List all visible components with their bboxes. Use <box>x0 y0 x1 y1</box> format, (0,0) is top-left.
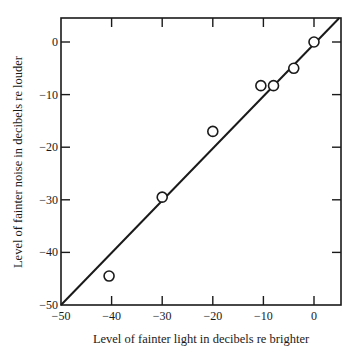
x-tick-label: −20 <box>203 309 222 323</box>
y-axis-tick-labels: −50−40−30−20−100 <box>39 35 58 312</box>
y-tick-label: −50 <box>39 298 58 312</box>
x-tick-label: −40 <box>102 309 121 323</box>
y-axis-title: Level of fainter noise in decibels re lo… <box>11 55 25 268</box>
data-point-circle <box>157 192 167 202</box>
y-tick-label: 0 <box>52 35 58 49</box>
x-axis-tick-labels: −50−40−30−20−100 <box>52 309 317 323</box>
data-point-circle <box>256 81 266 91</box>
data-point-circle <box>269 81 279 91</box>
x-tick-label: −30 <box>153 309 172 323</box>
y-tick-label: −20 <box>39 140 58 154</box>
data-point-circle <box>208 126 218 136</box>
equality-line <box>61 18 339 305</box>
x-axis-ticks <box>112 18 314 305</box>
x-axis-title: Level of fainter light in decibels re br… <box>93 332 310 346</box>
data-point-circle <box>289 63 299 73</box>
scatter-chart: −50−40−30−20−100 −50−40−30−20−100 Level … <box>0 0 357 356</box>
data-point-circle <box>104 271 114 281</box>
x-tick-label: −10 <box>254 309 273 323</box>
y-tick-label: −30 <box>39 193 58 207</box>
x-tick-label: 0 <box>311 309 317 323</box>
data-point-circle <box>309 37 319 47</box>
y-tick-label: −40 <box>39 245 58 259</box>
y-axis-ticks <box>61 42 341 252</box>
y-tick-label: −10 <box>39 88 58 102</box>
